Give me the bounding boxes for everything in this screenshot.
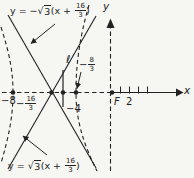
- x-axis-arrowhead: [176, 89, 184, 97]
- label-focus: F: [114, 96, 120, 107]
- label-center-neg16-3: − 163: [16, 95, 36, 112]
- label-neg8: −8: [1, 95, 16, 106]
- equation-bottom: y = √3(x + 163): [8, 157, 80, 174]
- eq-top-fraction: 163: [75, 2, 86, 19]
- eq-bottom-mid: (x +: [41, 160, 64, 171]
- label-neg4: −4: [66, 103, 81, 114]
- eq-bottom-radicand: 3: [34, 160, 41, 172]
- label-tick-2: 2: [126, 96, 132, 107]
- vertex-fraction: 83: [88, 56, 94, 73]
- center-minus: −: [16, 98, 24, 109]
- eq-top-pre: y = −: [10, 5, 38, 16]
- point-vertex-neg8-3: [74, 90, 79, 95]
- equation-top: y = −√3(x + 163): [10, 2, 90, 19]
- point-neg4: [61, 90, 66, 95]
- figure-canvas: [0, 0, 194, 178]
- vertex-minus: −: [79, 59, 87, 70]
- eq-top-radicand: 3: [44, 5, 51, 17]
- eq-bottom-fraction: 163: [65, 157, 76, 174]
- y-axis-arrowhead: [107, 19, 115, 29]
- leader-vertex-label: [77, 72, 81, 89]
- center-fraction: 163: [25, 95, 36, 112]
- eq-bottom-post: ): [76, 160, 80, 171]
- eq-top-post: ): [86, 5, 90, 16]
- hyperbola-right-branch: [76, 5, 97, 171]
- eq-bottom-pre: y =: [8, 160, 28, 171]
- label-y-axis: y: [103, 1, 109, 12]
- label-directrix: ℓ: [66, 54, 71, 65]
- leader-top-equation: [31, 24, 55, 44]
- label-x-axis: x: [184, 85, 190, 96]
- leader-bottom-equation: [23, 136, 47, 155]
- hyperbola-figure-page: { "colors": { "ink": "#222222", "paper":…: [0, 0, 194, 178]
- eq-top-mid: (x +: [51, 5, 74, 16]
- point-focus: [110, 90, 115, 95]
- point-center-neg16-3: [49, 90, 54, 95]
- label-vertex-neg8-3: − 83: [79, 56, 95, 73]
